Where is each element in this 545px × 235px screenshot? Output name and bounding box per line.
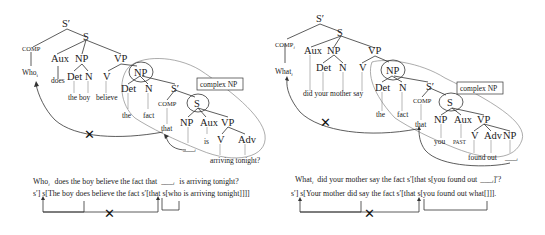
word-past: PAST bbox=[453, 139, 467, 145]
sentence-surface-right: Whatidid your mother say the fact s′[tha… bbox=[295, 175, 502, 185]
word-the-right: the bbox=[376, 110, 386, 119]
node-n2-right: N bbox=[399, 82, 407, 93]
node-sbar-emb: S′ bbox=[171, 83, 179, 94]
node-np-emb-right: NP bbox=[434, 114, 448, 125]
word-what: Whati bbox=[275, 67, 293, 77]
node-np-emb: NP bbox=[180, 117, 194, 128]
node-det2-right: Det bbox=[375, 82, 390, 93]
node-comp2-right: COMP bbox=[413, 97, 432, 104]
right-subjacency-brackets bbox=[298, 197, 487, 212]
word-is: is bbox=[204, 137, 209, 146]
node-n1: N bbox=[85, 71, 93, 82]
word-fact-right: fact bbox=[397, 110, 409, 119]
node-s-root: S bbox=[83, 31, 89, 42]
node-vp: VP bbox=[114, 53, 128, 64]
node-n1-right: N bbox=[339, 62, 347, 73]
node-v1-right: V bbox=[359, 62, 367, 73]
node-det1-right: Det bbox=[316, 62, 331, 73]
node-adv-emb: Adv bbox=[238, 134, 257, 145]
node-np-obj: NP bbox=[134, 67, 148, 78]
node-v-emb-right: V bbox=[471, 130, 479, 141]
sentence-bracketed: s′] s[The boy does believe the fact s′[t… bbox=[33, 189, 250, 198]
node-comp2: COMP bbox=[158, 100, 177, 107]
node-np-emb2-right: NP bbox=[503, 130, 517, 141]
node-aux: Aux bbox=[51, 53, 70, 64]
word-the: the bbox=[122, 111, 132, 120]
node-v1: V bbox=[103, 71, 111, 82]
word-that-right: that bbox=[415, 120, 427, 129]
blocked-x-icon: ✕ bbox=[84, 127, 95, 142]
node-np-subj: NP bbox=[75, 53, 89, 64]
sentence-surface: Whoidoes the boy believe the fact that__… bbox=[33, 177, 239, 187]
node-sbar-root-right: S′ bbox=[316, 13, 324, 24]
node-aux-emb-right: Aux bbox=[454, 114, 473, 125]
node-adv-emb-right: Adv bbox=[484, 130, 503, 141]
node-v-emb: V bbox=[217, 134, 225, 145]
node-sbar-root: S′ bbox=[62, 18, 70, 29]
node-aux-right: Aux bbox=[304, 45, 323, 56]
node-s-emb: S bbox=[194, 98, 200, 109]
island-constraint-diagram: S′ S COMP Aux NP VP Det N V NP Det N S′ … bbox=[0, 0, 545, 235]
node-s-root-right: S bbox=[337, 27, 343, 38]
sentence-bracketed-right: s′] s[Your mother did say the fact s′[th… bbox=[291, 189, 496, 198]
node-vp-right: VP bbox=[368, 45, 382, 56]
word-who: Whoi bbox=[22, 68, 39, 78]
node-n2: N bbox=[145, 83, 153, 94]
node-comp: COMP bbox=[22, 45, 41, 52]
node-np-obj-right: NP bbox=[386, 65, 400, 76]
word-found-out: found out bbox=[468, 153, 498, 162]
node-vp-emb-right: VP bbox=[477, 114, 491, 125]
node-vp-emb: VP bbox=[221, 117, 235, 128]
node-sbar-emb-right: S′ bbox=[426, 81, 434, 92]
right-tree: S′ S COMPi Aux NP VP Det N V NP Det N S′… bbox=[275, 13, 523, 221]
word-did-your-mother-say: did your mother say bbox=[303, 89, 363, 98]
node-det1: Det bbox=[67, 71, 82, 82]
node-s-emb-right: S bbox=[447, 97, 453, 108]
complex-np-label: complex NP bbox=[200, 80, 237, 89]
blocked-x-icon-2: ✕ bbox=[104, 206, 115, 221]
word-the-boy: the boy bbox=[68, 93, 91, 102]
node-aux-emb: Aux bbox=[200, 117, 219, 128]
word-you: you bbox=[434, 137, 446, 146]
word-gap-right: ___i bbox=[504, 153, 518, 162]
word-gap: ___i bbox=[182, 144, 196, 153]
node-np-subj-right: NP bbox=[327, 45, 341, 56]
complex-np-label-right: complex NP bbox=[460, 84, 497, 93]
word-believe: believe bbox=[96, 93, 118, 102]
blocked-x-icon-right: ✕ bbox=[320, 115, 331, 130]
left-tree: S′ S COMP Aux NP VP Det N V NP Det N S′ … bbox=[22, 18, 265, 221]
node-det2: Det bbox=[121, 83, 136, 94]
word-fact: fact bbox=[143, 111, 155, 120]
word-does: does bbox=[51, 76, 65, 85]
blocked-x-icon-right-2: ✕ bbox=[364, 206, 375, 221]
word-arriving-tonight: arriving tonight? bbox=[210, 156, 261, 165]
blocked-movement-arrow-right bbox=[287, 80, 417, 133]
